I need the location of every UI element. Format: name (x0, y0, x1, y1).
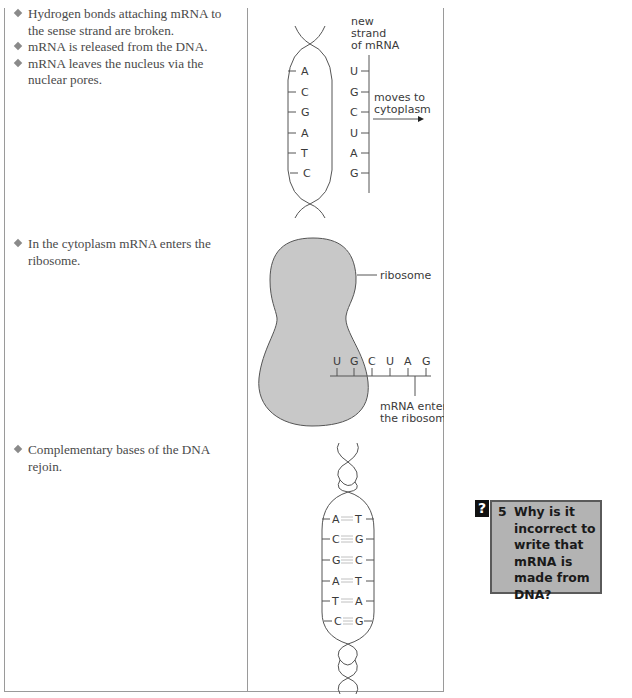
svg-text:C: C (301, 86, 309, 99)
svg-text:U: U (350, 65, 358, 78)
svg-text:T: T (331, 595, 339, 608)
ribosome-shape (259, 238, 369, 426)
svg-text:U: U (350, 127, 358, 140)
svg-text:A: A (332, 575, 340, 588)
svg-text:A: A (355, 595, 363, 608)
svg-text:the ribosome: the ribosome (380, 412, 444, 425)
svg-text:C: C (334, 615, 342, 628)
diamond-bullet-icon (14, 58, 22, 66)
svg-text:A: A (404, 355, 412, 368)
bullet-item: mRNA leaves the nucleus via the nuclear … (14, 56, 239, 89)
question-text: Why is it incorrect to write that mRNA i… (514, 504, 602, 603)
bullet-item: Complementary bases of the DNA rejoin. (14, 442, 239, 475)
svg-text:U: U (333, 355, 341, 368)
svg-text:C: C (368, 355, 376, 368)
svg-text:A: A (350, 147, 358, 160)
bullet-item: mRNA is released from the DNA. (14, 39, 239, 56)
bullet-item: Hydrogen bonds attaching mRNA to the sen… (14, 6, 239, 39)
diagram-mrna-release: A C G A T C U G C U A G new strand of mR… (248, 0, 444, 220)
ribosome-illustration: ribosome U G C U A G mRNA enters the rib… (248, 220, 444, 440)
question-number: 5 (498, 504, 507, 521)
svg-text:C: C (350, 106, 358, 119)
svg-text:G: G (332, 554, 341, 567)
diamond-bullet-icon (14, 445, 22, 453)
svg-text:of mRNA: of mRNA (351, 39, 400, 52)
svg-text:A: A (301, 127, 309, 140)
svg-text:G: G (350, 167, 359, 180)
dna-rejoin-illustration: A T C G G C A T T A C G (248, 440, 444, 698)
svg-text:ribosome: ribosome (380, 269, 431, 282)
step-2-bullets: In the cytoplasm mRNA enters the ribosom… (14, 236, 239, 269)
question-box: 5 Why is it incorrect to write that mRNA… (490, 500, 602, 594)
svg-text:cytoplasm: cytoplasm (374, 103, 431, 116)
mrna-release-illustration: A C G A T C U G C U A G new strand of mR… (248, 0, 444, 220)
diamond-bullet-icon (14, 239, 22, 247)
svg-text:A: A (332, 513, 340, 526)
question-mark-icon: ? (475, 500, 489, 517)
svg-text:G: G (350, 86, 359, 99)
step-3-bullets: Complementary bases of the DNA rejoin. (14, 442, 239, 475)
svg-text:U: U (386, 355, 394, 368)
svg-text:G: G (301, 106, 310, 119)
svg-text:T: T (300, 147, 308, 160)
diagram-dna-rejoin: A T C G G C A T T A C G (248, 440, 444, 698)
svg-text:C: C (303, 167, 311, 180)
svg-text:C: C (355, 554, 363, 567)
svg-text:G: G (350, 355, 359, 368)
svg-text:C: C (332, 533, 340, 546)
svg-text:G: G (422, 355, 431, 368)
svg-text:T: T (354, 513, 362, 526)
svg-text:G: G (355, 533, 364, 546)
diamond-bullet-icon (14, 42, 22, 50)
diamond-bullet-icon (14, 9, 22, 17)
svg-text:A: A (301, 65, 309, 78)
bullet-item: In the cytoplasm mRNA enters the ribosom… (14, 236, 239, 269)
hydrogen-bonds (341, 517, 353, 624)
arrow-right-icon (418, 116, 424, 122)
svg-text:T: T (354, 575, 362, 588)
step-1-bullets: Hydrogen bonds attaching mRNA to the sen… (14, 6, 239, 89)
svg-text:G: G (355, 615, 364, 628)
diagram-ribosome: ribosome U G C U A G mRNA enters the rib… (248, 220, 444, 440)
